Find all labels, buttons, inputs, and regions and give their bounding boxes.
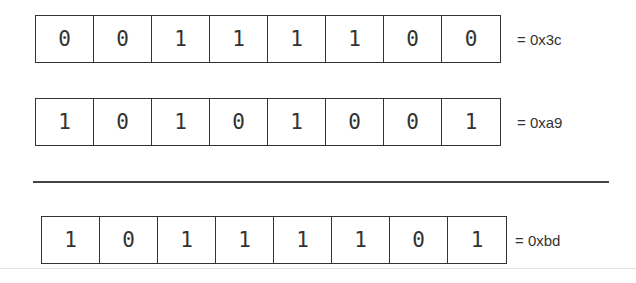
bit-cell: 1: [158, 217, 216, 263]
bit-cell: 1: [332, 217, 390, 263]
bit-cell: 0: [390, 217, 448, 263]
bit-cell: 1: [274, 217, 332, 263]
operand-a-row: 0 0 1 1 1 1 0 0 = 0x3c: [35, 15, 562, 63]
hex-value-label: = 0xa9: [517, 114, 562, 131]
page-edge-shadow: [0, 268, 636, 269]
hex-value-label: = 0x3c: [517, 31, 562, 48]
bit-cell: 1: [268, 16, 326, 62]
bit-cell: 0: [384, 99, 442, 145]
bit-cell: 0: [94, 16, 152, 62]
bit-cell: 1: [152, 16, 210, 62]
hex-value-label: = 0xbd: [515, 232, 560, 249]
bit-cell: 1: [216, 217, 274, 263]
bit-cell: 1: [36, 99, 94, 145]
bit-cell: 1: [210, 16, 268, 62]
operand-b-row: 1 0 1 0 1 0 0 1 = 0xa9: [35, 98, 562, 146]
bit-cells: 1 0 1 1 1 1 0 1: [41, 216, 507, 264]
bit-cell: 0: [36, 16, 94, 62]
bit-cell: 1: [448, 217, 506, 263]
result-divider-line: [33, 181, 609, 183]
bit-cell: 0: [100, 217, 158, 263]
bit-cell: 1: [326, 16, 384, 62]
bit-cell: 0: [442, 16, 500, 62]
bit-cell: 1: [442, 99, 500, 145]
bit-cell: 0: [326, 99, 384, 145]
bit-cell: 0: [94, 99, 152, 145]
bit-cells: 0 0 1 1 1 1 0 0: [35, 15, 501, 63]
bit-cell: 0: [210, 99, 268, 145]
bit-cell: 1: [268, 99, 326, 145]
bit-cells: 1 0 1 0 1 0 0 1: [35, 98, 501, 146]
result-row: 1 0 1 1 1 1 0 1 = 0xbd: [41, 216, 560, 264]
bit-cell: 1: [42, 217, 100, 263]
bit-cell: 0: [384, 16, 442, 62]
bit-cell: 1: [152, 99, 210, 145]
